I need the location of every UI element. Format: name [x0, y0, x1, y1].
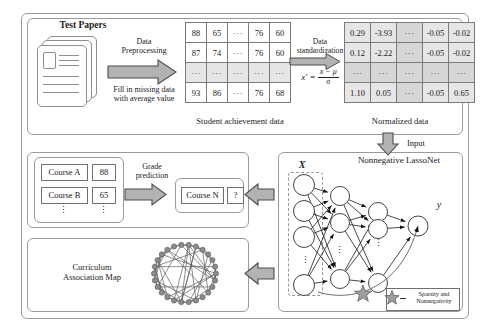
network-input-label: X — [292, 159, 312, 170]
table-cell: -0.05 — [423, 83, 449, 103]
curriculum-map-label: Curriculum Association Map — [47, 263, 137, 282]
table-cell: ··· — [186, 63, 207, 83]
standardization-label: Data standardization — [292, 38, 348, 55]
lassonet-title: Nonnegative LassoNet — [340, 155, 458, 165]
preprocessing-label-line1: Data — [136, 37, 151, 46]
table-cell: ··· — [228, 63, 249, 83]
score-list-ellipsis: ⋮ — [92, 205, 114, 215]
table-cell: ··· — [423, 63, 449, 83]
table-row: ··············· — [345, 63, 475, 83]
doc-text-line — [59, 60, 79, 61]
table-cell: -2.22 — [371, 43, 397, 63]
table-cell: 93 — [186, 83, 207, 103]
table-cell: -0.05 — [423, 23, 449, 43]
doc-text-line — [43, 92, 79, 93]
table-row: 0.29-3.93···-0.05-0.02 — [345, 23, 475, 43]
formula-lhs: x′ = — [301, 72, 315, 82]
table-cell: ··· — [371, 63, 397, 83]
table-cell: 0.05 — [371, 83, 397, 103]
course-a-score: 88 — [92, 164, 116, 181]
table-cell: 0.29 — [345, 23, 371, 43]
curriculum-map-line2: Association Map — [63, 272, 121, 282]
table-row: 0.12-2.22···-0.05-0.02 — [345, 43, 475, 63]
doc-text-line — [43, 84, 79, 85]
table-cell: -0.02 — [449, 23, 475, 43]
table-cell: 88 — [186, 23, 207, 43]
course-b-name: Course B — [41, 187, 88, 204]
legend-line2: Nonnegativity — [416, 297, 451, 304]
table-cell: ··· — [449, 63, 475, 83]
table-cell: 76 — [249, 23, 270, 43]
test-papers-title: Test Papers — [38, 20, 128, 31]
predicted-course-score: ? — [227, 187, 244, 204]
predicted-course-name: Course N — [181, 187, 224, 204]
table-cell: 60 — [270, 23, 291, 43]
curriculum-map-line1: Curriculum — [72, 262, 111, 272]
table-cell: 65 — [207, 23, 228, 43]
table-row: ··············· — [186, 63, 291, 83]
table-cell: 74 — [207, 43, 228, 63]
course-b-score: 65 — [92, 187, 116, 204]
table-cell: 0.12 — [345, 43, 371, 63]
doc-text-line — [59, 65, 79, 66]
grade-prediction-line2: prediction — [136, 171, 168, 180]
formula-fraction: x − μ σ — [318, 68, 339, 87]
input-feature-dashed-box — [288, 172, 323, 296]
table-cell: 0.65 — [449, 83, 475, 103]
table-cell: ··· — [228, 23, 249, 43]
network-legend-text: Sparsity and Nonnegativity — [408, 290, 460, 304]
table-cell: ··· — [397, 83, 423, 103]
table-cell: 76 — [249, 43, 270, 63]
preprocessing-note: Fill in missing data with average value — [100, 86, 188, 104]
network-output-label: y — [432, 199, 446, 210]
table-cell: ··· — [270, 63, 291, 83]
preprocessing-note-line1: Fill in missing data — [113, 85, 175, 94]
standardization-formula: x′ = x − μ σ — [292, 68, 348, 87]
table-cell: -0.02 — [449, 43, 475, 63]
table-cell: ··· — [397, 43, 423, 63]
course-a-name: Course A — [41, 164, 88, 181]
table-cell: 86 — [207, 83, 228, 103]
preprocessing-note-line2: with average value — [114, 94, 174, 103]
standardization-label-line2: standardization — [297, 46, 343, 55]
hidden-layer1-ellipsis: ⋮ — [330, 245, 348, 255]
document-photo-icon — [43, 52, 56, 69]
doc-text-line — [43, 76, 79, 77]
normalized-table-caption: Normalized data — [345, 117, 455, 127]
table-cell: -0.05 — [423, 43, 449, 63]
table-cell: ··· — [397, 63, 423, 83]
table-row: 9386···7668 — [186, 83, 291, 103]
course-list-ellipsis: ⋮ — [41, 205, 86, 215]
table-cell: ··· — [228, 83, 249, 103]
table-row: 8774···7660 — [186, 43, 291, 63]
input-arrow-label: Input — [396, 139, 436, 149]
table-cell: ··· — [228, 43, 249, 63]
preprocessing-label: Data Preprocessing — [108, 38, 180, 56]
normalized-data-table: 0.29-3.93···-0.05-0.020.12-2.22···-0.05-… — [344, 22, 475, 103]
preprocessing-label-line2: Preprocessing — [122, 46, 167, 55]
grade-prediction-line1: Grade — [142, 162, 162, 171]
legend-line1: Sparsity and — [419, 290, 450, 297]
table-cell: ··· — [207, 63, 228, 83]
table-row: 1.100.05···-0.050.65 — [345, 83, 475, 103]
table-cell: ··· — [249, 63, 270, 83]
grade-prediction-label: Grade prediction — [123, 163, 181, 181]
table-cell: 60 — [270, 43, 291, 63]
hidden-layer2-ellipsis: ⋮ — [369, 238, 387, 248]
table-row: 8865···7660 — [186, 23, 291, 43]
formula-denominator: σ — [318, 78, 339, 87]
table-cell: 76 — [249, 83, 270, 103]
table-cell: 87 — [186, 43, 207, 63]
table-cell: ··· — [397, 23, 423, 43]
student-achievement-table: 8865···76608774···7660···············938… — [185, 22, 291, 103]
table-cell: -3.93 — [371, 23, 397, 43]
input-layer-ellipsis: ⋮ — [296, 255, 314, 265]
doc-text-line — [59, 55, 79, 56]
student-table-caption: Student achievement data — [180, 117, 300, 127]
table-cell: ··· — [345, 63, 371, 83]
table-cell: 68 — [270, 83, 291, 103]
table-cell: 1.10 — [345, 83, 371, 103]
